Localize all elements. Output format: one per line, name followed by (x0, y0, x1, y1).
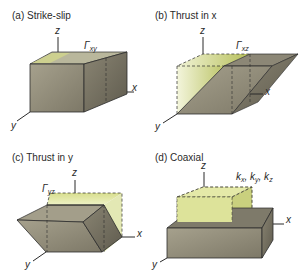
y-axis-line (160, 258, 167, 262)
panel-a-title: (a) Strike-slip (12, 10, 71, 21)
z-axis-label: z (199, 25, 205, 36)
z-axis-label: z (54, 25, 60, 36)
y-axis-label: y (154, 121, 161, 132)
shear-label-gamma-yz: Γyz (42, 183, 55, 196)
y-axis-label: y (151, 259, 158, 270)
panel-a: (a) Strike-slip z x y Γxy (10, 10, 138, 131)
y-axis-line (17, 112, 30, 121)
panel-c: (c) Thrust in y z x y Γyz (12, 152, 143, 270)
z-axis-label: z (71, 167, 77, 178)
x-axis-label: x (136, 228, 143, 239)
y-axis-label: y (10, 120, 17, 131)
y-axis-line (163, 114, 177, 123)
shear-label-gamma-xz: Γxz (236, 40, 249, 52)
y-axis-label: y (24, 259, 31, 270)
x-axis-label: x (264, 86, 271, 97)
shear-label-gamma-xy: Γxy (84, 40, 97, 53)
z-axis-label: z (200, 160, 206, 171)
expanded-front-visible (177, 197, 232, 222)
panel-d: (d) Coaxial z x y kx, ky, kz (151, 152, 292, 270)
panel-b-title: (b) Thrust in x (155, 10, 217, 21)
x-axis-label: x (285, 214, 292, 225)
panel-d-title: (d) Coaxial (155, 152, 203, 163)
y-axis-line (33, 252, 46, 261)
front-face (30, 64, 84, 112)
permeability-label: kx, ky, kz (236, 171, 273, 184)
x-axis-label: x (131, 82, 138, 93)
fault-diagram: (a) Strike-slip z x y Γxy (b) Thrust in … (0, 0, 306, 278)
slab-front-face (167, 228, 262, 258)
panel-c-title: (c) Thrust in y (12, 152, 73, 163)
panel-b: (b) Thrust in x z x y Γxz (154, 10, 298, 132)
